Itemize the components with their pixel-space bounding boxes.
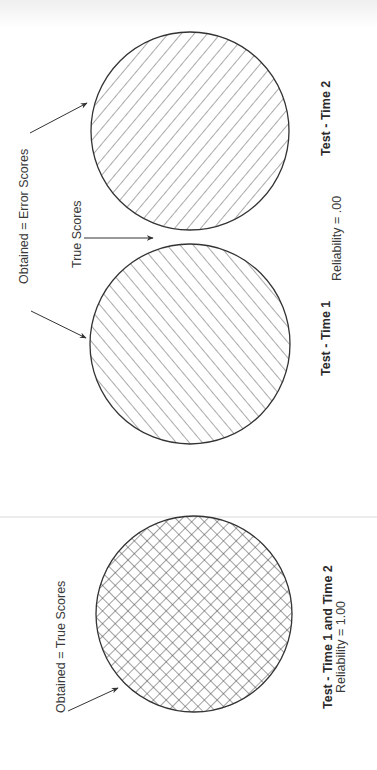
arrow-error-to-time1: [31, 311, 86, 338]
reliability-zero-label: Reliability = .00: [331, 196, 344, 281]
true-scores-label: True Scores: [71, 200, 84, 268]
caption-test-time-1-and-2: Test - Time 1 and Time 2: [322, 565, 335, 709]
circle-test-time-1-and-2: [96, 516, 292, 712]
obtained-true-scores-label: Obtained = True Scores: [55, 581, 68, 713]
caption-test-time-2: Test - Time 2: [320, 81, 333, 156]
obtained-error-scores-label: Obtained = Error Scores: [18, 149, 31, 284]
circle-test-time-2: [91, 32, 289, 230]
arrow-obtained-true: [68, 688, 118, 711]
caption-test-time-1: Test - Time 1: [320, 301, 333, 376]
circle-test-time-1: [90, 244, 290, 444]
reliability-one-label: Reliability = 1.00: [335, 601, 348, 693]
arrow-error-to-time2: [30, 103, 87, 133]
